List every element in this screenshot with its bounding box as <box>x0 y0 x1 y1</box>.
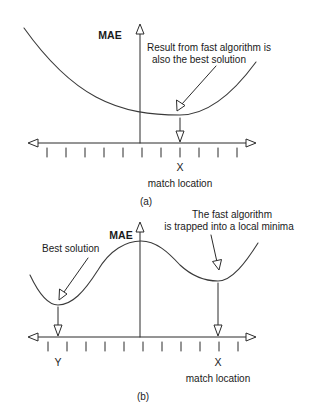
panel-b-x-marker-label: X <box>214 356 221 368</box>
panel-b-y-axis-label: MAE <box>109 229 132 241</box>
panel-b-x-axis <box>28 333 256 351</box>
panel-b-x-minimum-drop-arrow <box>214 283 222 336</box>
figure-root: MAE Result from fast algorithm is also t… <box>0 0 314 411</box>
panel-b-x-axis-label: match location <box>186 373 250 384</box>
panel-b-best-solution-arrow <box>59 258 88 300</box>
panel-b-local-minima-arrow <box>211 235 222 270</box>
panel-a-y-axis-label: MAE <box>98 29 121 41</box>
panel-b-y-axis-up-arrow-icon <box>136 222 144 232</box>
error-surface-figure: MAE Result from fast algorithm is also t… <box>0 0 314 411</box>
panel-a-annotation-line1: Result from fast algorithm is <box>147 42 271 53</box>
panel-a-x-marker-label: X <box>176 161 183 173</box>
panel-b-y-axis <box>136 222 144 337</box>
panel-a-caption: (a) <box>140 196 152 207</box>
panel-a-y-axis-up-arrow-icon <box>136 24 144 34</box>
panel-a-x-axis-label: match location <box>148 178 212 189</box>
panel-b-y-minimum-drop-arrow <box>54 307 62 336</box>
panel-a-annotation-arrow <box>177 66 217 111</box>
panel-a-annotation-line2: also the best solution <box>152 54 246 65</box>
panel-a-x-axis <box>28 139 256 157</box>
panel-a-y-axis <box>136 24 144 143</box>
panel-b-x-axis-ticks <box>48 342 238 351</box>
panel-a: MAE Result from fast algorithm is also t… <box>24 24 271 207</box>
panel-b-annotation-right-line2: is trapped into a local minima <box>164 221 294 232</box>
panel-b-y-marker-label: Y <box>54 356 61 368</box>
panel-a-minimum-drop-arrow <box>176 118 184 142</box>
panel-b-x-axis-right-arrow-icon <box>246 333 256 341</box>
panel-b-caption: (b) <box>137 391 149 402</box>
panel-b-annotation-best-solution: Best solution <box>42 243 99 254</box>
panel-b-x-axis-left-arrow-icon <box>28 333 38 341</box>
panel-a-x-axis-ticks <box>47 148 237 157</box>
panel-a-x-axis-right-arrow-icon <box>246 139 256 147</box>
panel-b-annotation-right-line1: The fast algorithm <box>192 209 272 220</box>
panel-b: MAE Best solution The fast algorithm is … <box>28 209 294 402</box>
panel-a-x-axis-left-arrow-icon <box>28 139 38 147</box>
